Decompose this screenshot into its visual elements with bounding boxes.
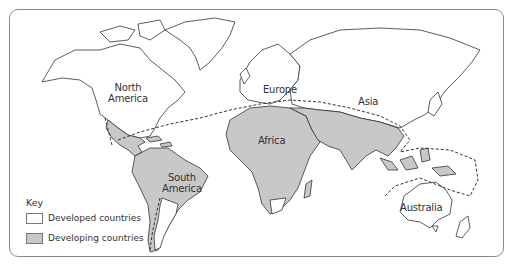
label-south: South [162,172,202,183]
developing-swatch [26,233,43,244]
label-america: America [108,93,148,104]
key-item-developing: Developing countries [26,231,144,245]
label-europe: Europe [263,84,297,95]
greenland [165,18,235,70]
key-label-developed: Developed countries [48,213,141,223]
key-title: Key [26,197,144,208]
label-north-america: North America [108,82,148,104]
label-africa: Africa [258,135,285,146]
developed-swatch [26,213,43,224]
key-item-developed: Developed countries [26,211,144,225]
africa [226,106,320,214]
label-north: North [108,82,148,93]
key-label-developing: Developing countries [48,233,144,243]
label-south-america: South America [162,172,202,194]
label-america-2: America [162,183,202,194]
label-australia: Australia [400,202,442,213]
label-asia: Asia [358,96,378,107]
map-key: Key Developed countries Developing count… [26,197,144,251]
